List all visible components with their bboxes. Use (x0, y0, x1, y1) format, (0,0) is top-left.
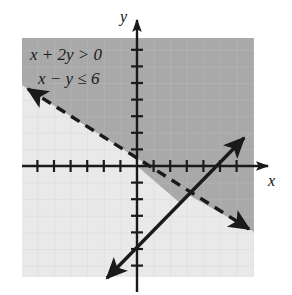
inequality-label-1: x + 2y > 0 (29, 45, 103, 64)
graph-canvas: x + 2y > 0 x − y ≤ 6 y x (0, 0, 292, 295)
inequality-label-2: x − y ≤ 6 (37, 69, 100, 88)
inequality-graph-figure: x + 2y > 0 x − y ≤ 6 y x (0, 0, 292, 295)
x-axis-label: x (267, 172, 275, 189)
y-axis-label: y (118, 8, 128, 26)
